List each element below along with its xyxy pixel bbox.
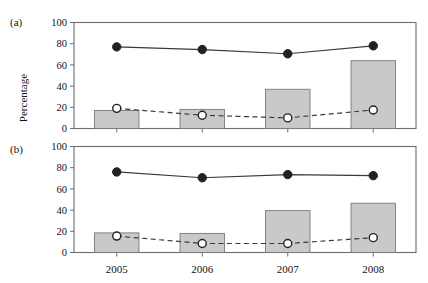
panel-a-open-circle-2008: [369, 106, 377, 114]
x-axis-labels: 2005200620072008: [106, 263, 385, 275]
panel-b-filled-circle-2005: [113, 168, 121, 176]
panel-a-open-circle-2006: [198, 111, 206, 119]
panel-b-filled-circle-2007: [284, 170, 292, 178]
panel-b-dashed-line: [117, 236, 374, 243]
panel-a: 020406080100: [51, 17, 416, 134]
chart-svg: 0204060801000204060801002005200620072008: [0, 0, 428, 283]
panel-a-y-tick-label-2: 40: [57, 81, 68, 92]
panel-b-bar-2008: [351, 203, 395, 252]
panel-b-open-circle-2006: [198, 239, 206, 247]
panel-a-bar-2008: [351, 61, 395, 129]
panel-b-open-circle-2008: [369, 234, 377, 242]
panel-a-y-tick-label-4: 80: [57, 38, 68, 49]
panel-a-dashed-line: [117, 108, 374, 118]
panel-b-open-circle-2007: [284, 239, 292, 247]
panel-a-y-tick-label-0: 0: [62, 123, 67, 134]
x-tick-label-2008: 2008: [362, 263, 385, 275]
panel-b-label: (b): [10, 143, 23, 155]
panel-a-label: (a): [10, 16, 22, 28]
panel-b-y-tick-label-2: 40: [57, 205, 68, 216]
panel-b-y-tick-label-3: 60: [57, 184, 68, 195]
panel-b-filled-circle-2008: [369, 171, 377, 179]
y-axis-title: Percentage: [17, 53, 29, 143]
panel-a-bar-2005: [95, 110, 139, 128]
panel-a-y-tick-label-1: 20: [57, 102, 68, 113]
panel-a-open-circle-2005: [113, 104, 121, 112]
panel-b-open-circle-2005: [113, 232, 121, 240]
panel-a-y-tick-label-5: 100: [51, 17, 67, 28]
panel-a-filled-circle-2006: [198, 45, 206, 53]
panel-b-y-tick-label-0: 0: [62, 247, 67, 258]
panel-a-y-tick-label-3: 60: [57, 60, 68, 71]
panel-a-solid-line: [117, 46, 374, 54]
panel-a-filled-circle-2007: [284, 50, 292, 58]
panel-a-filled-circle-2005: [113, 43, 121, 51]
x-tick-label-2006: 2006: [191, 263, 214, 275]
x-tick-label-2005: 2005: [106, 263, 129, 275]
panel-b-y-tick-label-1: 20: [57, 226, 68, 237]
panel-a-bar-2007: [266, 89, 310, 128]
panel-b-y-tick-label-4: 80: [57, 162, 68, 173]
panel-b: 020406080100: [51, 141, 416, 258]
panel-b-filled-circle-2006: [198, 174, 206, 182]
panel-b-y-tick-label-5: 100: [51, 141, 67, 152]
panel-a-open-circle-2007: [284, 114, 292, 122]
figure-container: (a) (b) Percentage 020406080100020406080…: [0, 0, 428, 283]
panel-b-solid-line: [117, 172, 374, 178]
panel-a-filled-circle-2008: [369, 42, 377, 50]
x-tick-label-2007: 2007: [277, 263, 300, 275]
